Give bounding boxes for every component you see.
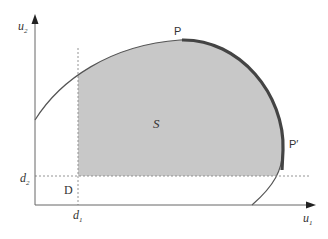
region-label: S xyxy=(153,116,160,131)
pareto-start-label: P xyxy=(174,25,181,37)
x-axis-label: u1 xyxy=(303,211,313,227)
d2-label: d2 xyxy=(20,171,30,187)
x-axis-arrow-icon xyxy=(306,202,316,209)
y-axis-arrow-icon xyxy=(32,14,39,24)
d1-label: d1 xyxy=(73,208,83,224)
y-axis-label: u2 xyxy=(18,19,28,35)
bargaining-diagram: u2 u1 d2 d1 D S P P′ xyxy=(0,0,328,239)
pareto-end-label: P′ xyxy=(289,138,298,150)
disagreement-point-label: D xyxy=(64,183,73,197)
